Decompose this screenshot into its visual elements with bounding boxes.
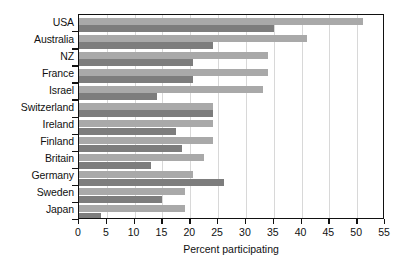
x-axis-tick-label-15: 15 [156, 226, 168, 238]
y-axis-tick [72, 99, 78, 100]
bar-finland-light [79, 137, 213, 144]
y-axis-tick [72, 82, 78, 83]
plot-area [78, 14, 384, 219]
bar-sweden-light [79, 188, 185, 195]
bar-nz-light [79, 52, 268, 59]
y-axis-tick [72, 185, 78, 186]
x-axis-tick-label-55: 55 [378, 226, 390, 238]
y-axis-label-france: France [0, 68, 74, 79]
x-axis-tick-label-45: 45 [323, 226, 335, 238]
bar-australia-light [79, 35, 307, 42]
bar-group [79, 32, 383, 49]
y-axis-label-finland: Finland [0, 136, 74, 147]
bar-france-dark [79, 76, 193, 83]
y-axis-tick [72, 117, 78, 118]
bar-france-light [79, 69, 268, 76]
y-axis-label-ireland: Ireland [0, 119, 74, 130]
x-axis-tick-label-30: 30 [239, 226, 251, 238]
y-axis-label-israel: Israel [0, 85, 74, 96]
y-axis-label-britain: Britain [0, 153, 74, 164]
bar-japan-light [79, 205, 185, 212]
y-axis-tick [72, 134, 78, 135]
bar-group [79, 186, 383, 203]
y-axis-label-sweden: Sweden [0, 187, 74, 198]
bar-group [79, 135, 383, 152]
x-axis-tick-label-10: 10 [128, 226, 140, 238]
y-axis-tick [72, 48, 78, 49]
bar-nz-dark [79, 59, 193, 66]
bar-usa-light [79, 18, 363, 25]
bar-chart-figure: USAAustraliaNZFranceIsraelSwitzerlandIre… [0, 0, 406, 274]
y-axis-category-labels: USAAustraliaNZFranceIsraelSwitzerlandIre… [0, 14, 74, 219]
x-axis-tick-label-20: 20 [183, 226, 195, 238]
bar-finland-dark [79, 145, 182, 152]
bar-usa-dark [79, 25, 274, 32]
x-axis-tick-label-5: 5 [103, 226, 109, 238]
y-axis-tick [72, 219, 78, 220]
bar-australia-dark [79, 42, 213, 49]
y-axis-label-switzerland: Switzerland [0, 102, 74, 113]
x-axis-tick [106, 219, 107, 224]
y-axis-label-japan: Japan [0, 204, 74, 215]
bar-group [79, 203, 383, 219]
x-axis-title: Percent participating [78, 243, 384, 255]
bar-germany-dark [79, 179, 224, 186]
x-axis-tick [245, 219, 246, 224]
bar-group [79, 66, 383, 83]
bar-switzerland-dark [79, 110, 213, 117]
x-axis-tick [328, 219, 329, 224]
bar-israel-light [79, 86, 263, 93]
bar-group [79, 169, 383, 186]
x-axis-tick-label-0: 0 [75, 226, 81, 238]
y-axis-tick [72, 65, 78, 66]
bar-britain-dark [79, 162, 151, 169]
x-axis-tick-label-25: 25 [211, 226, 223, 238]
y-axis-label-usa: USA [0, 17, 74, 28]
x-axis-tick-label-50: 50 [350, 226, 362, 238]
x-axis-tick-label-35: 35 [267, 226, 279, 238]
y-axis-label-germany: Germany [0, 170, 74, 181]
bar-israel-dark [79, 93, 157, 100]
bar-switzerland-light [79, 103, 213, 110]
x-axis-tick [356, 219, 357, 224]
y-axis-tick [72, 202, 78, 203]
x-axis-tick [134, 219, 135, 224]
x-axis-tick [217, 219, 218, 224]
bar-group [79, 100, 383, 117]
bar-ireland-dark [79, 128, 176, 135]
bar-group [79, 49, 383, 66]
bar-group [79, 83, 383, 100]
bar-britain-light [79, 154, 204, 161]
x-axis-tick [161, 219, 162, 224]
x-axis-tick [301, 219, 302, 224]
x-axis-tick-label-40: 40 [295, 226, 307, 238]
y-axis-label-australia: Australia [0, 34, 74, 45]
y-axis-label-nz: NZ [0, 51, 74, 62]
y-axis-tick [72, 31, 78, 32]
y-axis-tick [72, 151, 78, 152]
bar-germany-light [79, 171, 193, 178]
y-axis-tick [72, 168, 78, 169]
x-axis-tick [273, 219, 274, 224]
bar-sweden-dark [79, 196, 162, 203]
x-axis-tick [78, 219, 79, 224]
bar-group [79, 152, 383, 169]
bar-group [79, 118, 383, 135]
x-axis-tick [384, 219, 385, 224]
x-axis-tick [189, 219, 190, 224]
bar-group [79, 15, 383, 32]
bar-ireland-light [79, 120, 213, 127]
